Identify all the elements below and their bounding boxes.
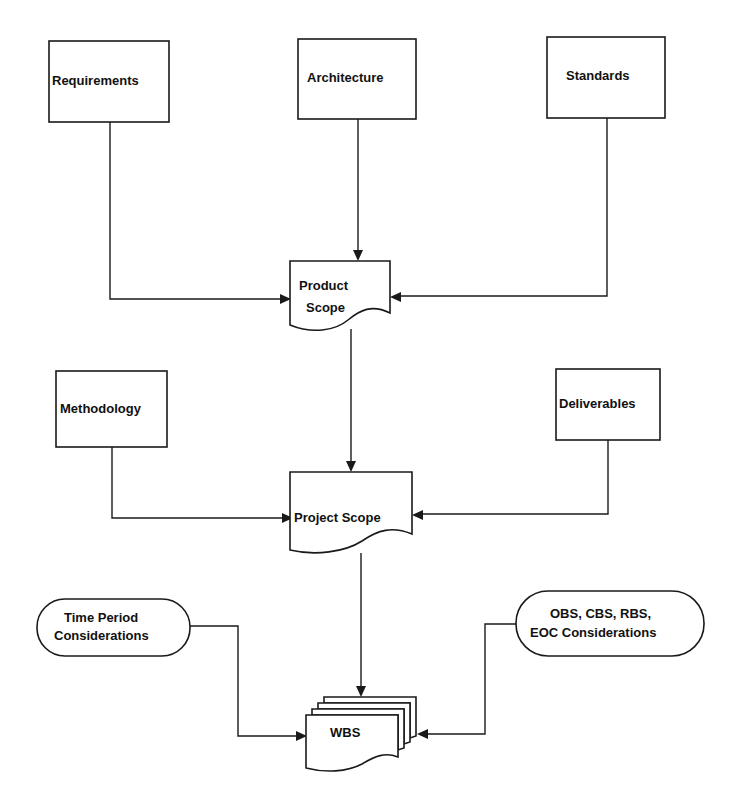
requirements-label: Requirements bbox=[52, 73, 139, 88]
flowchart-canvas: Requirements Architecture Standards Prod… bbox=[0, 0, 736, 807]
connector-methodology-project-scope bbox=[112, 447, 284, 518]
connector-deliverables-project-scope bbox=[421, 440, 608, 514]
standards-node: Standards bbox=[547, 37, 665, 118]
connector-standards-product-scope bbox=[399, 118, 607, 296]
time-period-label-line2: Considerations bbox=[54, 628, 149, 643]
arrowhead-icon bbox=[346, 461, 356, 472]
architecture-label: Architecture bbox=[307, 70, 384, 85]
product-scope-label-line2: Scope bbox=[306, 300, 345, 315]
connector-requirements-product-scope bbox=[110, 122, 282, 299]
arrowhead-icon bbox=[417, 729, 428, 739]
methodology-label: Methodology bbox=[60, 401, 142, 416]
arrowhead-icon bbox=[390, 292, 401, 302]
arrowhead-icon bbox=[356, 686, 366, 697]
project-scope-label: Project Scope bbox=[294, 510, 381, 525]
project-scope-node: Project Scope bbox=[290, 472, 412, 553]
deliverables-label: Deliverables bbox=[559, 396, 636, 411]
requirements-node: Requirements bbox=[49, 41, 169, 122]
product-scope-label-line1: Product bbox=[299, 278, 349, 293]
wbs-node: WBS bbox=[306, 697, 416, 771]
time-period-considerations-node: Time Period Considerations bbox=[37, 599, 190, 656]
deliverables-node: Deliverables bbox=[556, 369, 660, 440]
arrowhead-icon bbox=[353, 250, 363, 261]
architecture-node: Architecture bbox=[298, 39, 416, 119]
arrowhead-icon bbox=[412, 510, 423, 520]
standards-label: Standards bbox=[566, 68, 630, 83]
obs-cbs-rbs-eoc-considerations-node: OBS, CBS, RBS, EOC Considerations bbox=[516, 591, 704, 656]
obs-cbs-label-line2: EOC Considerations bbox=[530, 625, 656, 640]
methodology-node: Methodology bbox=[56, 371, 167, 447]
connector-time-period-wbs bbox=[190, 626, 298, 736]
connector-obs-cbs-wbs bbox=[426, 624, 516, 734]
wbs-label: WBS bbox=[330, 725, 361, 740]
time-period-label-line1: Time Period bbox=[64, 610, 138, 625]
product-scope-node: Product Scope bbox=[290, 261, 390, 330]
obs-cbs-label-line1: OBS, CBS, RBS, bbox=[550, 606, 651, 621]
